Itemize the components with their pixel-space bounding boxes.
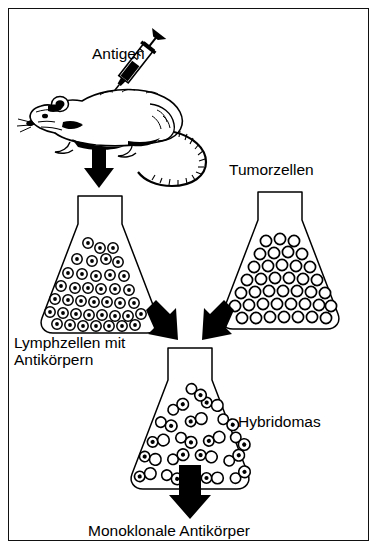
label-antigen: Antigen bbox=[92, 45, 145, 62]
label-monoklonale-antikoerper: Monoklonale Antikörper bbox=[88, 522, 250, 539]
arrow-tumor-to-hybridoma-flask bbox=[202, 300, 234, 340]
mouse-illustration bbox=[17, 89, 206, 186]
arrow-mouse-to-lymph-flask bbox=[84, 147, 114, 188]
label-lymphzellen-mit-antikoerpern: Lymphzellen mit Antikörpern bbox=[14, 334, 125, 369]
label-hybridomas: Hybridomas bbox=[238, 413, 321, 430]
diagram-artwork bbox=[0, 0, 379, 557]
figure-container: Antigen Tumorzellen Lymphzellen mit Anti… bbox=[0, 0, 379, 557]
label-tumorzellen: Tumorzellen bbox=[229, 161, 314, 178]
arrow-lymph-to-hybridoma-flask bbox=[146, 300, 178, 340]
